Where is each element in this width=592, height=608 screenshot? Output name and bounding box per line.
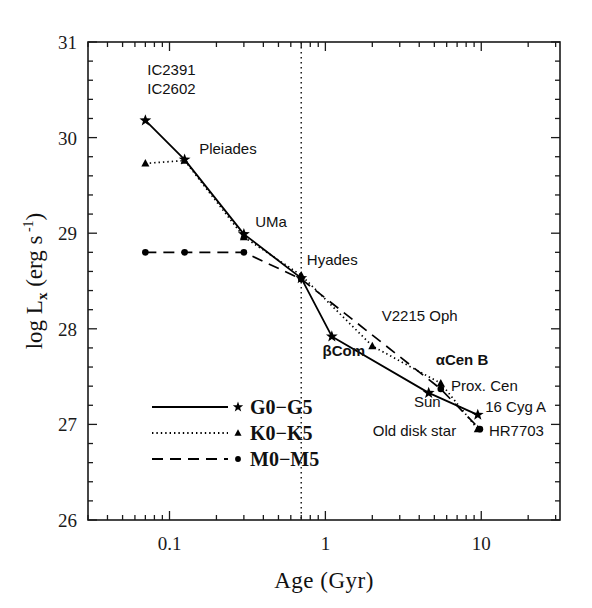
y-tick-label: 27 bbox=[58, 414, 77, 435]
y-tick-label: 29 bbox=[58, 223, 77, 244]
legend-marker-circle bbox=[235, 456, 241, 462]
point-label: Hyades bbox=[307, 251, 358, 268]
point-label: V2215 Oph bbox=[382, 307, 458, 324]
data-point-circle bbox=[241, 249, 248, 256]
x-axis-title: Age (Gyr) bbox=[274, 568, 374, 593]
point-label: 16 Cyg A bbox=[485, 398, 546, 415]
legend-label: M0−M5 bbox=[250, 448, 319, 470]
data-point-circle bbox=[477, 426, 484, 433]
point-label: UMa bbox=[255, 213, 287, 230]
y-tick-label: 28 bbox=[58, 319, 77, 340]
figure-root: 0.1110262728293031 IC2391IC2602PleiadesU… bbox=[0, 0, 592, 608]
xray-luminosity-vs-age-chart: 0.1110262728293031 IC2391IC2602PleiadesU… bbox=[0, 0, 592, 608]
x-tick-label: 1 bbox=[321, 533, 331, 554]
point-label: Prox. Cen bbox=[451, 377, 518, 394]
x-tick-label: 10 bbox=[472, 533, 491, 554]
y-tick-label: 30 bbox=[58, 128, 77, 149]
data-point-circle bbox=[142, 249, 149, 256]
point-label: IC2391 bbox=[147, 61, 195, 78]
legend-label: K0−K5 bbox=[250, 422, 313, 444]
y-tick-label: 26 bbox=[58, 510, 77, 531]
data-point-circle bbox=[181, 249, 188, 256]
data-point-circle bbox=[437, 386, 444, 393]
point-label: Sun bbox=[414, 393, 441, 410]
point-label: HR7703 bbox=[489, 422, 544, 439]
y-tick-label: 31 bbox=[58, 32, 77, 53]
point-label: βCom bbox=[323, 342, 366, 359]
legend-label: G0−G5 bbox=[250, 396, 313, 418]
point-label: Old disk star bbox=[373, 422, 456, 439]
point-label: Pleiades bbox=[199, 140, 257, 157]
data-point-circle bbox=[298, 276, 305, 283]
x-tick-label: 0.1 bbox=[158, 533, 182, 554]
point-label: αCen B bbox=[436, 351, 489, 368]
point-label: IC2602 bbox=[147, 80, 195, 97]
